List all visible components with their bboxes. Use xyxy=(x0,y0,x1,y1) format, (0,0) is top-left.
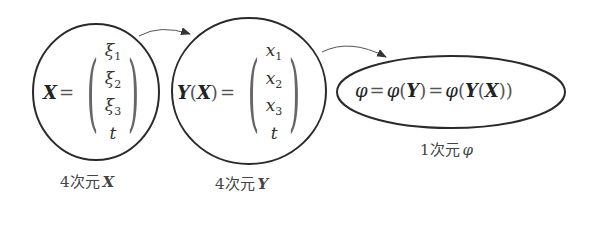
x-component-vector: ( ξ1 ξ2 ξ3 t ) xyxy=(76,40,150,143)
right-paren: ) xyxy=(128,50,139,134)
x-node-equation: X = ( ξ1 ξ2 ξ3 t ) xyxy=(43,42,150,142)
component-x1: x1 xyxy=(266,40,283,67)
y-component-vector: ( x1 x2 x3 t ) xyxy=(237,40,311,143)
component-x3: x3 xyxy=(266,95,283,122)
phi-node-caption: 1次元φ xyxy=(420,138,473,159)
arrow-x-to-y xyxy=(139,29,190,36)
y-node-equation: Y ( X ) = ( x1 x2 x3 t ) xyxy=(177,42,311,142)
right-paren: ) xyxy=(289,50,300,134)
equals-sign: = xyxy=(220,82,235,103)
x-node-caption: 4次元X xyxy=(60,170,114,191)
component-xi3: ξ3 xyxy=(105,95,121,122)
component-xi1: ξ1 xyxy=(105,40,121,67)
component-t: t xyxy=(110,123,117,144)
arrow-y-to-phi xyxy=(322,46,386,57)
x-vector-symbol: X xyxy=(43,82,57,103)
component-xi2: ξ2 xyxy=(105,68,121,95)
left-paren: ( xyxy=(87,50,98,134)
component-t: t xyxy=(271,123,278,144)
component-column: x1 x2 x3 t xyxy=(266,40,283,143)
phi-node-equation: φ = φ ( Y ) = φ ( Y ( X ) ) xyxy=(355,80,513,101)
component-column: ξ1 ξ2 ξ3 t xyxy=(105,40,121,143)
left-paren: ( xyxy=(248,50,259,134)
equals-sign: = xyxy=(59,82,74,103)
y-argument-x: X xyxy=(197,82,211,103)
component-x2: x2 xyxy=(266,68,283,95)
y-node-caption: 4次元Y xyxy=(215,172,268,193)
y-vector-symbol: Y xyxy=(177,82,190,103)
